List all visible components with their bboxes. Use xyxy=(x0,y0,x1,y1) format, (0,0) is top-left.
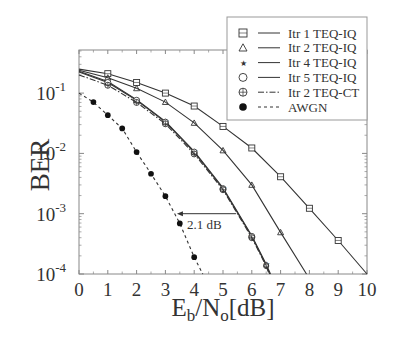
legend-label: Itr 1 TEQ-IQ xyxy=(288,26,357,41)
filled-circle-marker xyxy=(191,254,197,260)
x-tick-label: 7 xyxy=(276,279,286,300)
series-line xyxy=(79,93,203,274)
square-icon xyxy=(239,29,247,37)
chart-canvas: 10-110-210-310-4 012345678910 ★★★★★★★ 2.… xyxy=(0,0,398,341)
y-tick-label: 10-1 xyxy=(36,79,66,104)
filled-circle-marker xyxy=(119,126,125,132)
legend-label: Itr 4 TEQ-IQ xyxy=(288,55,357,70)
filled-circle-marker xyxy=(148,171,154,177)
y-tick-label: 10-4 xyxy=(36,260,66,285)
y-axis-label: BER xyxy=(25,139,55,192)
y-tick-label: 10-3 xyxy=(36,200,66,225)
x-tick-label: 8 xyxy=(305,279,315,300)
x-tick-label: 0 xyxy=(74,279,84,300)
x-tick-label: 2 xyxy=(132,279,142,300)
arrow-head-icon xyxy=(177,211,183,216)
filled-circle-marker xyxy=(239,103,247,111)
filled-circle-icon xyxy=(239,103,247,111)
x-tick-label: 3 xyxy=(161,279,171,300)
filled-circle-marker xyxy=(91,99,97,105)
filled-circle-marker xyxy=(105,112,111,118)
annotation-2.1db: 2.1 dB xyxy=(177,211,236,232)
x-tick-label: 1 xyxy=(103,279,113,300)
circle-plus-icon xyxy=(239,88,247,96)
legend-label: AWGN xyxy=(288,100,328,115)
annotation-label: 2.1 dB xyxy=(187,217,222,232)
series-awgn xyxy=(79,93,203,274)
star-marker: ★ xyxy=(240,59,247,68)
circle-icon xyxy=(239,73,247,81)
circle-marker xyxy=(239,73,247,81)
filled-circle-marker xyxy=(177,221,183,227)
legend: Itr 1 TEQ-IQItr 2 TEQ-IQ★Itr 4 TEQ-IQItr… xyxy=(227,17,367,120)
legend-label: Itr 2 TEQ-IQ xyxy=(288,40,357,55)
x-tick-label: 9 xyxy=(333,279,343,300)
legend-label: Itr 2 TEQ-CT xyxy=(288,85,359,100)
filled-circle-marker xyxy=(134,149,140,155)
star-icon: ★ xyxy=(240,59,247,68)
filled-circle-marker xyxy=(163,193,169,199)
x-tick-label: 10 xyxy=(358,279,377,300)
ber-chart: 10-110-210-310-4 012345678910 ★★★★★★★ 2.… xyxy=(0,0,398,341)
legend-label: Itr 5 TEQ-IQ xyxy=(288,70,357,85)
